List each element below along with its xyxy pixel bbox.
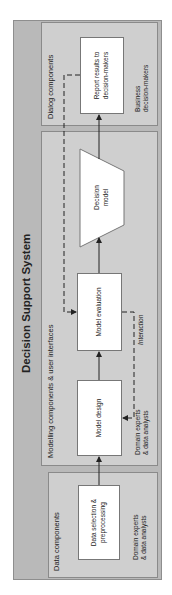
interaction-label: Interaction (137, 315, 144, 345)
edge-evaluation-to-design (122, 312, 134, 418)
diagram-canvas: Decision Support System Data components … (0, 0, 172, 595)
modelling-actor-label: Domain experts & data analysts (134, 409, 151, 455)
modelling-actor-text: Domain experts & data analysts (134, 409, 149, 455)
data-actor-label: Domain experts & data analysts (132, 514, 149, 560)
edge-report-to-evaluation (64, 75, 80, 312)
dialog-actor-label: Business decision-makers (134, 65, 151, 112)
dialog-actor-text: Business decision-makers (134, 65, 149, 112)
data-actor-text: Domain experts & data analysts (132, 514, 147, 560)
